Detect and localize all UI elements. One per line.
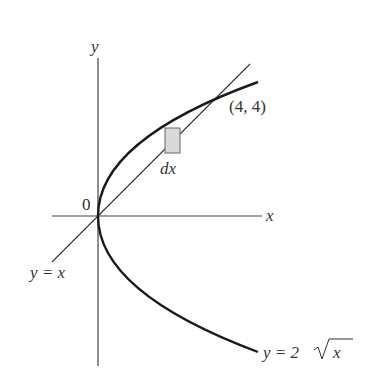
intersection-label: (4, 4)	[229, 97, 266, 116]
x-axis-label: x	[265, 206, 274, 225]
curve-label: y = 2 x	[261, 339, 353, 362]
parabola-curve	[98, 82, 258, 352]
y-axis-label: y	[89, 37, 99, 56]
line-label: y = x	[28, 263, 66, 282]
strip-dx	[165, 128, 180, 153]
origin-label: 0	[82, 195, 91, 214]
diagram-canvas: y x 0 (4, 4) dx y = x y = 2 x	[0, 0, 380, 391]
curve-label-lhs: y = 2	[261, 343, 300, 362]
strip-label: dx	[160, 159, 177, 178]
line-y-equals-x	[52, 64, 250, 262]
curve-label-radicand: x	[332, 343, 341, 362]
